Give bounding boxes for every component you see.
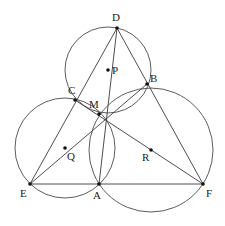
label-m: M — [89, 98, 99, 110]
point-f — [201, 182, 205, 186]
point-r — [149, 148, 153, 152]
point-b — [145, 82, 149, 86]
segments-group — [30, 28, 203, 184]
geometry-diagram: DBCMPQREAF — [0, 0, 225, 226]
point-m — [97, 112, 101, 116]
label-e: E — [20, 187, 27, 199]
label-f: F — [206, 187, 212, 199]
label-a: A — [93, 189, 101, 201]
label-r: R — [142, 151, 150, 163]
segment-cf — [75, 100, 203, 184]
diagram-canvas: DBCMPQREAF — [0, 0, 225, 226]
point-d — [115, 26, 119, 30]
label-c: C — [68, 84, 75, 96]
label-b: B — [150, 72, 157, 84]
label-q: Q — [67, 150, 75, 162]
segment-df — [117, 28, 203, 184]
point-e — [28, 182, 32, 186]
label-p: P — [112, 64, 118, 76]
point-a — [97, 182, 101, 186]
point-c — [73, 98, 77, 102]
point-p — [106, 68, 110, 72]
segment-da — [99, 28, 117, 184]
label-d: D — [112, 11, 120, 23]
points-group — [28, 26, 205, 186]
